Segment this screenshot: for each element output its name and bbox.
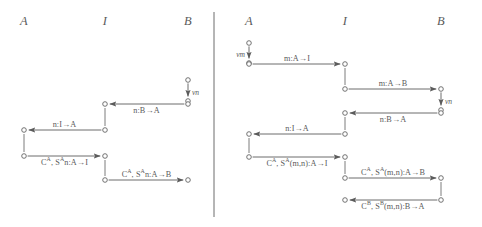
event-node [247, 155, 252, 160]
nu-label: νm [236, 50, 245, 59]
msc-figure: νnn:B→An:I→ACA, SAn:A→ICA, SAn:A→BAIBνmν… [0, 0, 482, 227]
event-node [22, 128, 27, 133]
message-label: n:B→A [380, 115, 406, 124]
message-label: CA, SAn:A→I [41, 158, 88, 167]
event-node [103, 154, 108, 159]
column-header-a: A [20, 14, 28, 29]
message-label: m:A→I [284, 54, 310, 63]
column-header-b: B [437, 14, 445, 29]
message-label: n:I→A [53, 120, 77, 129]
event-node [343, 62, 348, 67]
event-node [343, 132, 348, 137]
event-node [103, 128, 108, 133]
message-label: n:I→A [285, 124, 309, 133]
event-node [343, 176, 348, 181]
column-header-i: I [343, 14, 347, 29]
message-label: n:B→A [133, 106, 159, 115]
event-node [439, 87, 444, 92]
column-header-b: B [184, 14, 192, 29]
event-node [103, 178, 108, 183]
message-label: CB, SB(m,n):B→A [361, 202, 424, 211]
event-node [186, 178, 191, 183]
event-node [439, 176, 444, 181]
event-node [439, 111, 444, 116]
message-label: CA, SA(m,n):A→B [361, 168, 425, 177]
event-node [343, 155, 348, 160]
event-node [186, 78, 191, 83]
message-label: CA, SAn:A→B [122, 170, 172, 179]
event-node [439, 198, 444, 203]
event-node [186, 102, 191, 107]
message-label: m:A→B [379, 79, 408, 88]
left-msc [22, 78, 191, 183]
event-node [247, 41, 252, 46]
event-node [343, 198, 348, 203]
nu-label: νn [445, 96, 452, 105]
message-label: CA, SA(m,n):A→I [266, 159, 327, 168]
msc-canvas [0, 0, 482, 227]
event-node [343, 111, 348, 116]
column-header-a: A [245, 14, 253, 29]
event-node [247, 62, 252, 67]
event-node [343, 87, 348, 92]
nu-label: νn [192, 87, 199, 96]
right-msc [247, 41, 444, 203]
event-node [103, 102, 108, 107]
column-header-i: I [103, 14, 107, 29]
event-node [22, 154, 27, 159]
event-node [247, 132, 252, 137]
